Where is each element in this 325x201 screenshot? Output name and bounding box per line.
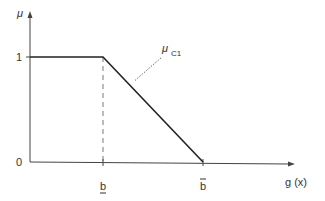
x-axis xyxy=(30,162,290,164)
x-tick-label: b xyxy=(100,180,106,192)
x-axis-label: g (x) xyxy=(285,176,307,188)
y-tick-label: 0 xyxy=(16,156,22,168)
series-annotation-subscript: C1 xyxy=(171,49,182,58)
annotation-leader-line xyxy=(135,57,162,81)
series-line xyxy=(30,57,203,162)
y-tick-label: 1 xyxy=(16,51,22,63)
series-annotation-label: μ xyxy=(161,42,168,54)
x-axis-arrow-icon xyxy=(288,162,295,167)
membership-function-chart: μ g (x) 01 bb μC1 xyxy=(0,0,325,201)
y-axis-label: μ xyxy=(16,7,23,19)
y-axis-arrow-icon xyxy=(28,11,33,18)
x-tick-label: b xyxy=(200,180,206,192)
